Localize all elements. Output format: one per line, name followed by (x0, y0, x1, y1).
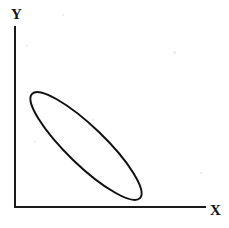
correlation-ellipse (19, 80, 153, 212)
figure-canvas (0, 0, 229, 228)
y-axis-label: Y (11, 7, 22, 22)
x-axis-label: X (210, 203, 221, 218)
correlation-ellipse-figure: Y X (0, 0, 229, 228)
axes-group (15, 27, 205, 207)
data-region (19, 80, 153, 212)
